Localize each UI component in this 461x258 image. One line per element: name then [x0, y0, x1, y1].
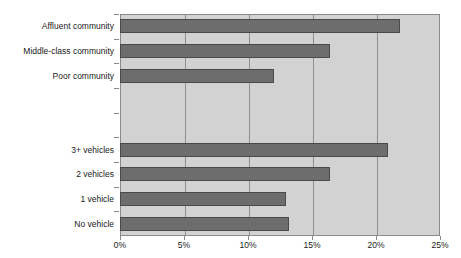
y-axis-tick — [114, 137, 119, 138]
y-axis-category-label: 3+ vehicles — [0, 145, 114, 155]
y-axis-category-label: 1 vehicle — [0, 194, 114, 204]
y-axis-tick — [114, 63, 119, 64]
bar[interactable] — [120, 69, 274, 83]
y-axis-tick — [114, 162, 119, 163]
bar-row — [120, 19, 440, 33]
x-axis-tick — [312, 236, 313, 240]
bar-row — [120, 69, 440, 83]
bar[interactable] — [120, 192, 286, 206]
bar-row — [120, 44, 440, 58]
y-axis-category-label: Poor community — [0, 71, 114, 81]
x-axis-tick — [120, 236, 121, 240]
bar-row — [120, 167, 440, 181]
bar[interactable] — [120, 217, 289, 231]
bar[interactable] — [120, 44, 330, 58]
bar[interactable] — [120, 143, 388, 157]
x-axis-tick-label: 5% — [178, 240, 190, 250]
y-axis-category-label: No vehicle — [0, 219, 114, 229]
x-axis-tick-label: 0% — [114, 240, 126, 250]
bar[interactable] — [120, 167, 330, 181]
bar-row — [120, 217, 440, 231]
x-axis-tick-label: 25% — [431, 240, 448, 250]
y-axis-tick — [114, 39, 119, 40]
y-axis-tick — [114, 88, 119, 89]
bar[interactable] — [120, 19, 400, 33]
y-axis-tick — [114, 211, 119, 212]
x-axis-tick — [248, 236, 249, 240]
x-axis-tick-label: 15% — [303, 240, 320, 250]
bar-chart-figure: Affluent communityMiddle-class community… — [0, 0, 461, 258]
x-axis-tick — [376, 236, 377, 240]
y-axis-tick — [114, 14, 119, 15]
y-axis-tick — [114, 113, 119, 114]
x-axis-tick-labels: 0%5%10%15%20%25% — [120, 240, 440, 254]
x-axis-tick — [184, 236, 185, 240]
chart-title — [0, 0, 461, 10]
bar-series-container — [120, 14, 440, 236]
bar-row — [120, 143, 440, 157]
y-axis-category-label: Middle-class community — [0, 46, 114, 56]
x-axis-tick-label: 10% — [239, 240, 256, 250]
y-axis-category-label: Affluent community — [0, 21, 114, 31]
y-axis-tick — [114, 187, 119, 188]
y-axis-category-label: 2 vehicles — [0, 169, 114, 179]
y-axis-category-labels: Affluent communityMiddle-class community… — [0, 14, 114, 236]
x-axis-tick — [440, 236, 441, 240]
bar-row — [120, 192, 440, 206]
x-axis-tick-label: 20% — [367, 240, 384, 250]
